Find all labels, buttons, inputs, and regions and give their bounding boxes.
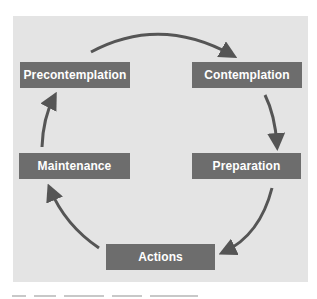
stage-contemplation: Contemplation bbox=[192, 62, 302, 88]
arrow-preparation-to-actions bbox=[224, 188, 272, 252]
arrow-precontemplation-to-contemplation bbox=[91, 34, 232, 55]
arrow-actions-to-maintenance bbox=[50, 189, 99, 248]
stage-maintenance: Maintenance bbox=[19, 153, 130, 179]
arrow-maintenance-to-precontemplation bbox=[42, 97, 54, 147]
stage-label: Actions bbox=[138, 250, 183, 264]
stage-label: Preparation bbox=[213, 159, 281, 173]
arrow-contemplation-to-preparation bbox=[265, 95, 277, 145]
stage-label: Precontemplation bbox=[24, 68, 127, 82]
figure-caption-cutoff bbox=[12, 295, 232, 299]
stage-actions: Actions bbox=[106, 244, 215, 270]
stage-preparation: Preparation bbox=[192, 153, 301, 179]
stage-label: Maintenance bbox=[38, 159, 112, 173]
stage-precontemplation: Precontemplation bbox=[20, 62, 130, 88]
stage-label: Contemplation bbox=[204, 68, 289, 82]
